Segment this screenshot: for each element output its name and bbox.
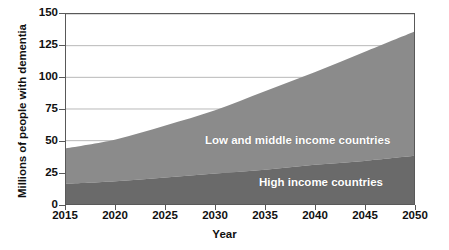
x-tick-mark-2030	[215, 205, 216, 210]
x-tick-mark-2050	[415, 205, 416, 210]
x-tick-label-2025: 2025	[143, 210, 187, 222]
x-tick-mark-2025	[165, 205, 166, 210]
x-tick-label-2040: 2040	[293, 210, 337, 222]
series-label-high-income: High income countries	[259, 176, 383, 188]
y-tick-label-75: 75	[18, 103, 58, 115]
y-tick-label-50: 50	[18, 135, 58, 147]
y-tick-label-150: 150	[18, 7, 58, 19]
y-tick-label-25: 25	[18, 167, 58, 179]
y-tick-label-100: 100	[18, 71, 58, 83]
x-tick-label-2015: 2015	[43, 210, 87, 222]
x-tick-mark-2035	[265, 205, 266, 210]
x-tick-mark-2045	[365, 205, 366, 210]
x-tick-label-2020: 2020	[93, 210, 137, 222]
x-axis-title: Year	[0, 228, 449, 240]
x-tick-mark-2015	[65, 205, 66, 210]
x-tick-label-2050: 2050	[393, 210, 437, 222]
dementia-projection-chart: Millions of people with dementia 1501251…	[0, 0, 449, 250]
series-label-low-and-middle-income: Low and middle income countries	[205, 134, 390, 146]
x-tick-mark-2020	[115, 205, 116, 210]
x-tick-mark-2040	[315, 205, 316, 210]
x-tick-label-2035: 2035	[243, 210, 287, 222]
y-tick-label-125: 125	[18, 39, 58, 51]
area-low-and-middle-income	[66, 32, 414, 184]
x-tick-label-2045: 2045	[343, 210, 387, 222]
x-tick-label-2030: 2030	[193, 210, 237, 222]
